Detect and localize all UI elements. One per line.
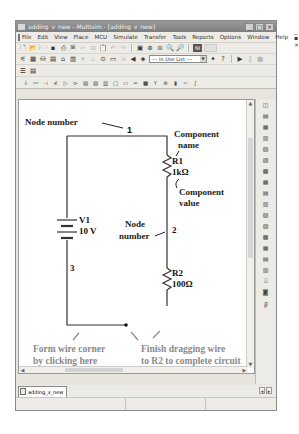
menu-mcu[interactable]: MCU xyxy=(94,34,107,40)
place-ttl-icon[interactable]: ⊳ xyxy=(72,79,79,87)
place-cmos-icon[interactable]: ▧ xyxy=(82,79,89,87)
place-ni-icon[interactable]: ▮ xyxy=(172,79,179,87)
spectrum-analyzer-icon[interactable]: ▩ xyxy=(261,233,270,241)
menu-transfer[interactable]: Transfer xyxy=(144,34,167,40)
scroll-down-arrow-icon[interactable]: ▼ xyxy=(247,361,254,368)
menu-window[interactable]: Window xyxy=(247,34,269,40)
vertical-scroll-thumb[interactable] xyxy=(248,138,253,258)
bode-plotter-icon[interactable]: ▨ xyxy=(261,156,270,164)
place-mcu-icon[interactable]: ▨ xyxy=(92,79,99,87)
place-advanced-peripherals-icon[interactable]: ■ xyxy=(142,79,149,87)
place-hierarchical-icon[interactable]: ʃ xyxy=(192,79,199,87)
agilent-generator-icon[interactable]: ▤ xyxy=(261,255,270,263)
dropdown-arrow-icon[interactable]: ▼ xyxy=(200,56,206,62)
new-icon[interactable]: 🗋 xyxy=(19,44,27,52)
current-probe-icon[interactable]: ℊ xyxy=(261,299,270,307)
print-preview-icon[interactable]: 🗎 xyxy=(69,44,77,52)
iv-analyzer-icon[interactable]: ▧ xyxy=(261,211,270,219)
menu-view[interactable]: View xyxy=(54,34,67,40)
menu-tools[interactable]: Tools xyxy=(172,34,186,40)
print-icon[interactable]: ⎙ xyxy=(59,44,67,52)
menu-help[interactable]: Help xyxy=(275,34,288,40)
ni-badge-icon[interactable]: NI xyxy=(193,44,202,52)
agilent-multimeter-icon[interactable]: ▥ xyxy=(261,266,270,274)
database-manager-icon[interactable]: ⛁ xyxy=(39,55,47,63)
menu-reports[interactable]: Reports xyxy=(192,34,213,40)
zoom-fit-icon[interactable]: 🔎 xyxy=(176,44,184,52)
distortion-analyzer-icon[interactable]: ▨ xyxy=(261,222,270,230)
redo-icon[interactable]: ↷ xyxy=(119,44,127,52)
network-analyzer-icon[interactable]: ▦ xyxy=(261,244,270,252)
place-power-icon[interactable]: ▭ xyxy=(122,79,129,87)
place-rf-icon[interactable]: Y xyxy=(152,79,159,87)
place-analog-icon[interactable]: ▷ xyxy=(62,79,69,87)
forward-annotate-icon[interactable]: ◀ xyxy=(129,55,137,63)
multimeter-icon[interactable]: ◫ xyxy=(261,101,270,109)
place-transistor-icon[interactable]: ≮ xyxy=(52,79,59,87)
maximize-button[interactable]: □ xyxy=(255,23,264,31)
four-channel-oscilloscope-icon[interactable]: ▧ xyxy=(261,145,270,153)
component-search-icon[interactable]: ✦ xyxy=(209,55,217,63)
zoom-area-icon[interactable]: 🔍 xyxy=(166,44,174,52)
tab-next-icon[interactable]: ▸ xyxy=(266,387,272,394)
in-use-list-dropdown[interactable]: --- In Use List --- ▼ xyxy=(149,55,207,63)
horizontal-scrollbar[interactable]: ◀ ▶ xyxy=(19,366,248,373)
tab-adding-v-new[interactable]: adding_v_new xyxy=(18,386,67,397)
frequency-counter-icon[interactable]: ▩ xyxy=(261,167,270,175)
toggle-fullscreen-icon[interactable]: ▣ xyxy=(136,44,144,52)
oscilloscope-icon[interactable]: ▥ xyxy=(261,134,270,142)
scroll-right-arrow-icon[interactable]: ▶ xyxy=(241,367,248,373)
logic-converter-icon[interactable]: ▤ xyxy=(261,189,270,197)
breadboard-icon[interactable]: ▤ xyxy=(49,55,57,63)
pause-simulation-icon[interactable]: ‖ xyxy=(246,55,254,63)
function-generator-icon[interactable]: ▤ xyxy=(261,112,270,120)
undo-icon[interactable]: ↶ xyxy=(109,44,117,52)
copy-icon[interactable]: ⧉ xyxy=(89,44,97,52)
show-hide-icon[interactable]: ▭ xyxy=(109,55,117,63)
place-diode-icon[interactable]: ⊣ xyxy=(42,79,49,87)
stop-simulation-icon[interactable]: ■ xyxy=(256,55,264,63)
menu-options[interactable]: Options xyxy=(220,34,242,40)
menu-place[interactable]: Place xyxy=(74,34,89,40)
word-generator-icon[interactable]: ▦ xyxy=(261,178,270,186)
erc-icon[interactable]: ▫ xyxy=(89,55,97,63)
zoom-in-icon[interactable]: ⊕ xyxy=(146,44,154,52)
place-bus-icon[interactable]: ⌐ xyxy=(182,79,189,87)
place-mixed-icon[interactable]: ▥ xyxy=(102,79,109,87)
place-electromechanical-icon[interactable]: ⊛ xyxy=(162,79,169,87)
labview-instrument-icon[interactable]: ⍗ xyxy=(261,277,270,285)
schematic-canvas[interactable]: 1 2 3 V1 10 V R1 1kΩ R2 100Ω Node number… xyxy=(18,99,255,374)
horizontal-scroll-thumb[interactable] xyxy=(65,368,123,372)
help-icon[interactable]: ? xyxy=(219,55,227,63)
menu-file[interactable]: File xyxy=(22,34,31,40)
toggle-grid-icon[interactable]: ☰ xyxy=(19,67,27,75)
place-indicator-icon[interactable]: ▢ xyxy=(112,79,119,87)
document-icon[interactable] xyxy=(18,34,20,41)
open-icon[interactable]: 📂 xyxy=(29,44,37,52)
run-simulation-icon[interactable]: ▶ xyxy=(236,55,244,63)
tab-prev-icon[interactable]: ◂ xyxy=(259,387,265,394)
place-source-icon[interactable]: ⏚ xyxy=(22,79,29,87)
place-misc-icon[interactable]: ━ xyxy=(132,79,139,87)
close-button[interactable]: × xyxy=(265,23,274,31)
wattmeter-icon[interactable]: ▦ xyxy=(261,123,270,131)
zoom-out-icon[interactable]: ⊖ xyxy=(156,44,164,52)
spreadsheet-view-icon[interactable]: ▦ xyxy=(29,55,37,63)
paste-icon[interactable]: 📋 xyxy=(99,44,107,52)
design-toolbox-icon[interactable]: ⚟ xyxy=(19,55,27,63)
component-wizard-icon[interactable]: ⌂ xyxy=(59,55,67,63)
grapher-icon[interactable]: ▾ xyxy=(79,55,87,63)
backannotate-icon[interactable]: ⇲ xyxy=(119,55,127,63)
postprocessor-icon[interactable]: ▥ xyxy=(69,55,77,63)
toggle-page-bounds-icon[interactable]: ▤ xyxy=(29,67,37,75)
menu-simulate[interactable]: Simulate xyxy=(113,34,138,40)
minimize-button[interactable]: _ xyxy=(245,23,254,31)
vertical-scrollbar[interactable]: ▲ ▼ xyxy=(246,100,254,368)
place-basic-icon[interactable]: 〰 xyxy=(32,79,39,87)
open-sample-icon[interactable]: 🗁 xyxy=(39,44,47,52)
logic-analyzer-icon[interactable]: ▥ xyxy=(261,200,270,208)
cut-icon[interactable]: ✂ xyxy=(79,44,87,52)
menu-edit[interactable]: Edit xyxy=(37,34,48,40)
save-icon[interactable]: ▪ xyxy=(49,44,57,52)
transfer-icon[interactable]: ◈ xyxy=(139,55,147,63)
